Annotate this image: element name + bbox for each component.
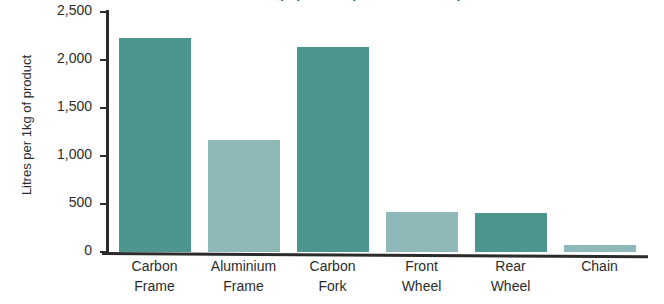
bar-fill — [208, 140, 280, 252]
y-axis-tick-label: 500 — [69, 194, 92, 210]
y-axis-title: Litres per 1kg of product — [18, 0, 36, 250]
y-axis-tick-label: 0 — [84, 242, 92, 258]
bar[interactable] — [208, 140, 280, 252]
x-axis-category-label-line: Front — [377, 256, 466, 276]
x-axis-category-label: CarbonFork — [288, 256, 377, 296]
y-axis-tick-mark — [100, 251, 107, 253]
bar[interactable] — [564, 245, 636, 252]
x-axis-category-label-line: Chain — [555, 256, 644, 276]
bar-chart: Water usage per component of a bicycle L… — [0, 0, 664, 304]
y-axis-tick: 2,500 — [100, 11, 107, 13]
y-axis-tick-label: 1,000 — [57, 146, 92, 162]
x-axis-category-label-line: Carbon — [110, 256, 199, 276]
x-axis-category-label-line: Frame — [199, 276, 288, 296]
y-axis-tick: 500 — [100, 203, 107, 205]
y-axis-tick: 1,000 — [100, 155, 107, 157]
x-axis-category-label-line: Rear — [466, 256, 555, 276]
y-axis-tick-mark — [100, 107, 107, 109]
y-axis-tick-label: 2,500 — [57, 2, 92, 18]
y-axis-tick-mark — [100, 203, 107, 205]
chart-title: Water usage per component of a bicycle — [110, 0, 580, 1]
x-axis-category-label-line: Wheel — [466, 276, 555, 296]
x-axis-category-label-line: Frame — [110, 276, 199, 296]
y-axis-tick: 0 — [100, 251, 107, 253]
x-axis-category-label: CarbonFrame — [110, 256, 199, 296]
bar-fill — [475, 213, 547, 252]
y-axis-tick-label: 1,500 — [57, 98, 92, 114]
x-axis-category-label: Chain — [555, 256, 644, 276]
bar-fill — [386, 212, 458, 252]
bar-series — [110, 12, 644, 252]
x-axis-category-label-line: Carbon — [288, 256, 377, 276]
y-axis-tick-mark — [100, 11, 107, 13]
y-axis-tick: 1,500 — [100, 107, 107, 109]
x-axis-category-labels: CarbonFrameAluminiumFrameCarbonForkFront… — [110, 256, 644, 304]
plot-area: 05001,0001,5002,0002,500 — [110, 12, 644, 252]
x-axis-category-label-line: Fork — [288, 276, 377, 296]
bar-fill — [119, 38, 191, 252]
y-axis-tick-mark — [100, 155, 107, 157]
y-axis-line — [106, 10, 109, 254]
bar-fill — [564, 245, 636, 252]
x-axis-category-label: AluminiumFrame — [199, 256, 288, 296]
bar[interactable] — [475, 213, 547, 252]
bar[interactable] — [119, 38, 191, 252]
bar-fill — [297, 47, 369, 252]
y-axis-tick-mark — [100, 59, 107, 61]
x-axis-category-label: RearWheel — [466, 256, 555, 296]
x-axis-category-label-line: Wheel — [377, 276, 466, 296]
y-axis-tick-label: 2,000 — [57, 50, 92, 66]
x-axis-category-label: FrontWheel — [377, 256, 466, 296]
y-axis-tick: 2,000 — [100, 59, 107, 61]
bar[interactable] — [386, 212, 458, 252]
x-axis-category-label-line: Aluminium — [199, 256, 288, 276]
bar[interactable] — [297, 47, 369, 252]
